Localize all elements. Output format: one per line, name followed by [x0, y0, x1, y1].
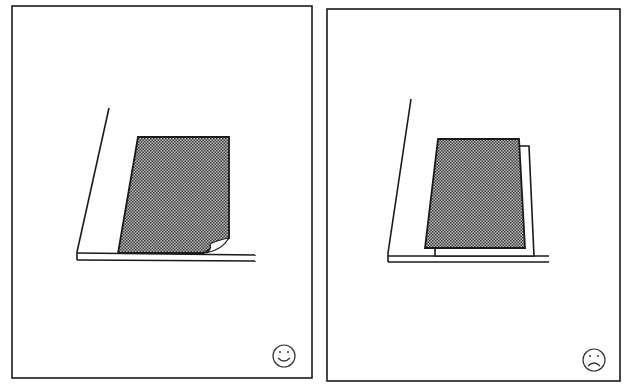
panel-right	[327, 9, 620, 381]
figure	[0, 0, 626, 391]
document-page	[425, 139, 525, 248]
scanner-bed-edge	[77, 260, 256, 261]
panel-left	[12, 6, 312, 378]
document-page	[118, 137, 229, 253]
